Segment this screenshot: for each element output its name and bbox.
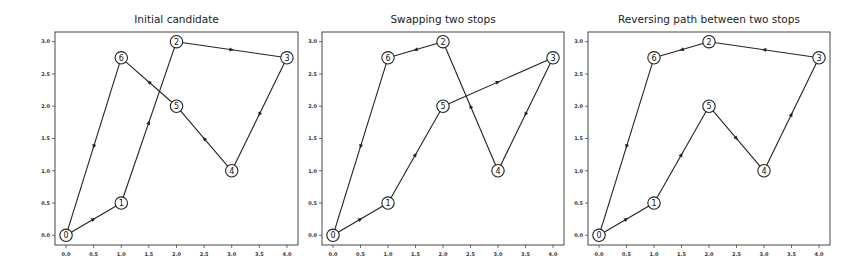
stop-label: 1 [651,199,656,208]
x-tick-label: 3.5 [787,251,796,257]
x-tick-label: 4.0 [815,251,824,257]
x-tick-label: 3.0 [760,251,769,257]
y-tick-label: 0.0 [574,232,583,238]
x-tick-label: 1.5 [677,251,686,257]
stop-label: 4 [761,167,766,176]
x-tick-label: 2.5 [732,251,741,257]
y-tick-label: 1.0 [574,168,583,174]
stop-label: 5 [706,102,711,111]
stop-label: 6 [651,54,656,63]
stop-label: 2 [706,38,711,47]
x-tick-label: 0.0 [595,251,604,257]
y-tick-label: 2.0 [574,103,583,109]
stop-label: 3 [816,54,821,63]
stop-label: 0 [596,231,601,240]
x-tick-label: 0.5 [622,251,631,257]
x-tick-label: 1.0 [650,251,659,257]
arrow-icon [625,144,629,149]
arrow-icon [679,47,684,51]
route-plot: 0.00.51.01.52.02.53.03.54.00.00.51.01.52… [0,0,860,267]
y-tick-label: 1.5 [574,135,583,141]
x-tick-label: 2.0 [705,251,714,257]
panel-reversing-path: Reversing path between two stops 0.00.51… [0,0,860,267]
y-tick-label: 2.5 [574,71,583,77]
plot-frame [588,32,830,245]
y-tick-label: 3.0 [574,38,583,44]
y-tick-label: 0.5 [574,200,583,206]
